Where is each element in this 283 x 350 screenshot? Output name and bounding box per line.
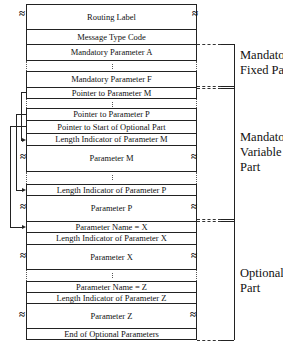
field-label: Length Indicator of Parameter X — [56, 234, 167, 243]
field-pointer-to-start-of-optional-part: Pointer to Start of Optional Part — [26, 120, 197, 134]
arrow-icon — [22, 138, 26, 142]
field-routing-label: Routing Label — [26, 4, 197, 30]
bracket-line — [221, 86, 234, 87]
field-label: Parameter Name = Z — [76, 283, 147, 292]
wave-break-icon: ≈ — [20, 250, 26, 261]
field-label: Parameter Name = X — [75, 223, 147, 232]
arrow-icon — [22, 188, 26, 192]
pointer-line-optional — [10, 126, 11, 227]
bracket-line — [234, 44, 235, 88]
section-label-line: Mandatory — [240, 130, 283, 145]
section-label-line: Part — [240, 281, 283, 296]
field-label: Mandatory Parameter F — [71, 75, 152, 84]
bracket-dash — [197, 88, 221, 89]
wave-break-icon: ≈ — [191, 250, 197, 261]
field-message-type-code: Message Type Code — [26, 29, 197, 45]
bracket-dash — [197, 44, 221, 45]
wave-break-icon: ≈ — [20, 201, 26, 212]
bracket-dash — [197, 219, 221, 220]
field-end-of-optional-parameters: End of Optional Parameters — [26, 328, 197, 340]
pointer-line-optional — [10, 126, 26, 127]
continuation-gap — [26, 172, 197, 184]
bracket-line — [221, 44, 234, 45]
pointer-line-optional — [10, 227, 22, 228]
continuation-gap — [26, 99, 197, 108]
bracket-line — [221, 88, 234, 89]
field-label: Parameter Z — [91, 312, 133, 321]
bracket-line — [234, 221, 235, 340]
field-label: Pointer to Start of Optional Part — [57, 123, 165, 132]
bracket-line — [221, 221, 234, 222]
field-label: Routing Label — [87, 13, 136, 22]
section-label-line: Variable — [240, 145, 283, 160]
bracket-dash — [197, 340, 221, 341]
section-label-line: Mandatory — [240, 48, 283, 63]
field-parameter-p: Parameter P — [26, 195, 197, 222]
bracket-dash — [197, 221, 221, 222]
wave-break-icon: ≈ — [20, 151, 26, 162]
field-label: Pointer to Parameter P — [73, 110, 150, 119]
pointer-line-m — [21, 92, 22, 140]
field-label: Message Type Code — [77, 33, 146, 42]
section-label-line: Part — [240, 160, 283, 175]
field-label: End of Optional Parameters — [64, 330, 159, 339]
section-label-mandatory-variable: Mandatory Variable Part — [240, 130, 283, 175]
bracket-dash — [197, 86, 221, 87]
field-label: Length Indicator of Parameter P — [57, 186, 167, 195]
field-parameter-m: Parameter M — [26, 145, 197, 172]
field-parameter-x: Parameter X — [26, 244, 197, 270]
wave-break-icon: ≈ — [190, 309, 196, 320]
field-label: Pointer to Parameter M — [72, 89, 152, 98]
section-label-line: Fixed Part — [240, 63, 283, 78]
bracket-line — [221, 340, 234, 341]
continuation-gap — [26, 270, 197, 281]
field-mandatory-parameter-a: Mandatory Parameter A — [26, 44, 197, 61]
arrow-icon — [22, 225, 26, 229]
field-label: Length Indicator of Parameter Z — [57, 294, 167, 303]
wave-break-icon: ≈ — [19, 309, 25, 320]
field-pointer-to-parameter-m: Pointer to Parameter M — [26, 87, 197, 99]
wave-break-icon: ≈ — [192, 8, 198, 19]
section-label-line: Optional — [240, 266, 283, 281]
field-label: Length Indicator of Parameter M — [55, 135, 167, 144]
wave-break-icon: ≈ — [191, 201, 197, 212]
field-label: Parameter X — [90, 253, 133, 262]
pointer-line-p — [16, 114, 26, 115]
bracket-line — [221, 219, 234, 220]
field-label: Parameter P — [91, 204, 132, 213]
field-label: Parameter M — [89, 154, 133, 163]
wave-break-icon: ≈ — [191, 151, 197, 162]
field-label: Mandatory Parameter A — [71, 48, 153, 57]
wave-break-icon: ≈ — [19, 8, 25, 19]
section-label-mandatory-fixed: Mandatory Fixed Part — [240, 48, 283, 78]
field-mandatory-parameter-f: Mandatory Parameter F — [26, 71, 197, 88]
field-parameter-z: Parameter Z — [26, 303, 197, 329]
bracket-line — [234, 88, 235, 221]
section-label-optional: Optional Part — [240, 266, 283, 296]
continuation-gap — [26, 61, 197, 71]
